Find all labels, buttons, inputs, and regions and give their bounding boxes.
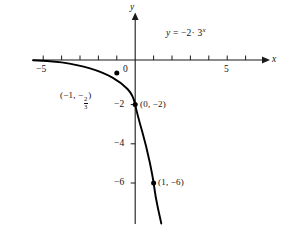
point-label-neg-one-close: ) [88, 90, 91, 100]
fraction-denominator: 3 [84, 104, 89, 111]
x-axis-label: x [272, 55, 276, 65]
y-tick-label-neg-6: −6 [114, 178, 125, 188]
point-label-one: (1, −6) [158, 178, 184, 187]
point-label-zero: (0, −2) [140, 100, 166, 109]
equation-exponent: x [202, 26, 205, 33]
y-tick-label-neg-4: −4 [114, 139, 125, 149]
coordinate-plane [0, 0, 282, 235]
x-axis [33, 56, 270, 64]
x-axis-ticks [43, 56, 245, 61]
point-marker-neg-one [114, 71, 119, 76]
point-marker-one [151, 181, 156, 186]
point-label-neg-one-open: (−1, − [60, 90, 83, 100]
y-axis-ticks [131, 105, 136, 183]
point-label-neg-one: (−1, −23) [60, 91, 91, 110]
y-tick-label-neg-2: −2 [114, 100, 125, 110]
y-axis-label: y [130, 3, 134, 13]
x-tick-label-0: 0 [123, 65, 128, 75]
point-marker-zero [133, 102, 138, 107]
equation-equals: = [173, 28, 179, 38]
exponential-curve [33, 60, 161, 223]
equation-lhs: y [166, 28, 170, 38]
y-axis [131, 13, 139, 225]
x-tick-label-5: 5 [224, 65, 229, 75]
equation-rhs: −2· 3 [181, 28, 202, 38]
equation-annotation: y=−2· 3x [166, 27, 206, 39]
graph-figure: y=−2· 3x −5 0 5 x y −2 −4 −6 (−1, −23) (… [0, 0, 282, 235]
x-tick-label-neg-5: −5 [36, 65, 47, 75]
